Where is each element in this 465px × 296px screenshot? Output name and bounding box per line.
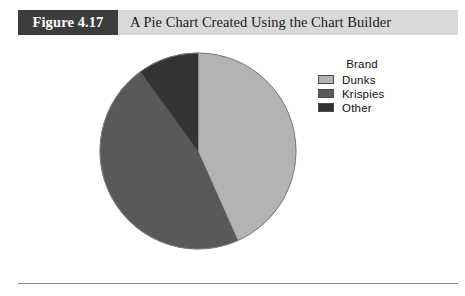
legend-title: Brand [324,58,400,70]
legend-swatch-other [318,103,334,112]
figure-number-block: Figure 4.17 [18,10,118,35]
legend-item[interactable]: Krispies [318,87,428,100]
legend-item[interactable]: Dunks [318,73,428,86]
chart-legend: Brand DunksKrispiesOther [318,58,428,115]
legend-swatch-krispies [318,89,334,98]
legend-item-label: Other [342,102,372,114]
legend-item-label: Dunks [342,74,376,86]
pie-slice-group [100,53,296,249]
footer-divider [18,283,458,284]
chart-area: Brand DunksKrispiesOther [0,38,465,256]
legend-item-label: Krispies [342,88,385,100]
legend-swatch-dunks [318,75,334,84]
legend-item[interactable]: Other [318,101,428,114]
figure-caption-bar: Figure 4.17 A Pie Chart Created Using th… [18,10,458,35]
figure-caption-title: A Pie Chart Created Using the Chart Buil… [118,10,458,35]
legend-items: DunksKrispiesOther [318,73,428,114]
